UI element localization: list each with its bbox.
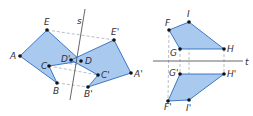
point-label-b: B — [53, 86, 59, 96]
point-c-prime — [96, 73, 100, 77]
point-label-h-prime: H' — [227, 69, 236, 79]
point-label-a-prime: A' — [133, 69, 143, 79]
point-label-e: E — [44, 17, 50, 27]
point-label-d-prime: D' — [61, 54, 70, 64]
point-b — [55, 81, 59, 85]
point-label-b-prime: B' — [84, 89, 93, 99]
point-a-prime — [129, 71, 133, 75]
point-h — [222, 47, 226, 51]
polygon-FGHI — [169, 22, 224, 49]
point-i-prime — [187, 98, 191, 102]
point-label-i: I — [187, 9, 190, 19]
point-i — [187, 20, 191, 24]
point-d — [79, 59, 83, 63]
point-label-e-prime: E' — [111, 27, 119, 37]
point-a — [18, 54, 22, 58]
point-f — [167, 28, 171, 32]
point-label-g: G — [170, 48, 177, 58]
axis-label-t: t — [245, 57, 249, 67]
right-figure-reflection-across-t: t FIHGG'H'I'F' — [153, 9, 249, 113]
point-label-c: C — [41, 61, 48, 71]
point-e — [45, 28, 49, 32]
point-label-d: D — [85, 56, 92, 66]
point-e-prime — [112, 38, 116, 42]
point-label-h: H — [227, 44, 234, 54]
point-label-c-prime: C' — [101, 70, 110, 80]
axis-label-s: s — [77, 16, 82, 26]
point-h-prime — [222, 72, 226, 76]
point-label-a: A — [9, 51, 16, 61]
point-label-f-prime: F' — [164, 102, 172, 112]
reflection-diagram: s AEDCBA'E'D'C'B' t FIHGG'H'I'F' — [0, 0, 253, 116]
point-g — [178, 47, 182, 51]
point-label-f: F — [165, 18, 171, 28]
left-figure-reflection-across-s: s AEDCBA'E'D'C'B' — [9, 9, 143, 100]
point-g-prime — [178, 72, 182, 76]
point-label-g-prime: G' — [169, 68, 178, 78]
polygon-FGHI-image — [168, 74, 224, 101]
point-c — [47, 64, 51, 68]
point-label-i-prime: I' — [186, 103, 191, 113]
dashed-connector — [168, 30, 169, 101]
polygon-ABCDE — [20, 30, 81, 83]
